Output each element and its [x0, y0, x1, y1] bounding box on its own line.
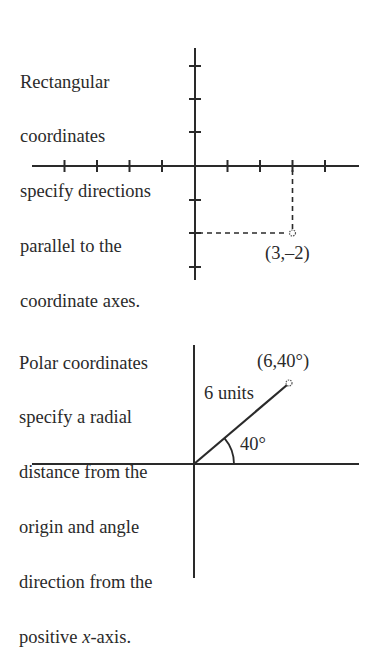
caption-text: -axis.: [90, 627, 131, 647]
polar-point-label: (6,40°): [257, 351, 309, 371]
angle-arc: [225, 438, 234, 464]
projection-guides: [198, 170, 293, 233]
rectangular-point-label: (3,–2): [265, 243, 310, 263]
polar-caption: Polar coordinates specify a radial dista…: [19, 317, 153, 651]
caption-line: direction from the: [19, 573, 153, 591]
caption-text: positive: [19, 627, 82, 647]
caption-line: origin and angle: [19, 518, 153, 536]
point-marker: [290, 230, 296, 236]
caption-line: positive x-axis.: [19, 628, 153, 646]
caption-line: Polar coordinates: [19, 354, 153, 372]
caption-line: distance from the: [19, 463, 153, 481]
polar-point-marker: [286, 380, 292, 386]
radius-label: 6 units: [204, 383, 254, 403]
caption-line: specify a radial: [19, 408, 153, 426]
angle-label: 40°: [240, 434, 266, 454]
